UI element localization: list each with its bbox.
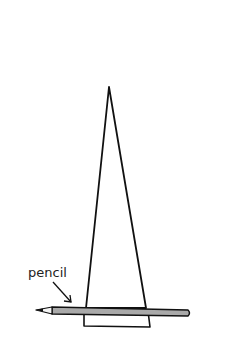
pencil-body [52,307,190,316]
label-arrow-line [53,282,71,302]
pencil [35,307,190,316]
paper-triangle [86,87,146,308]
diagram-canvas: pencil [0,0,226,354]
pencil-label: pencil [28,265,67,280]
